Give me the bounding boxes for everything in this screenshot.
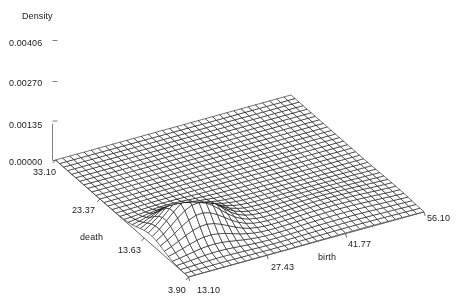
density-surface-plot: Density 0.00406 0.00270 0.00135 0.00000 … xyxy=(0,0,466,304)
z-axis-tick-label: 0.00135 xyxy=(9,120,42,130)
y-axis-title: birth xyxy=(318,252,336,262)
surface-mesh-canvas xyxy=(0,0,466,304)
x-axis-tick-label: 3.90 xyxy=(168,285,186,295)
z-axis-title: Density xyxy=(22,11,53,21)
z-axis-tick-label: 0.00406 xyxy=(9,38,42,48)
y-axis-tick-label: 56.10 xyxy=(427,213,450,223)
y-axis-tick-label: 27.43 xyxy=(271,262,294,272)
z-axis-tick-label: 0.00000 xyxy=(9,157,42,167)
x-axis-title: death xyxy=(80,232,103,242)
x-axis-tick-label: 23.37 xyxy=(72,205,95,215)
z-axis-tick-label: 0.00270 xyxy=(9,78,42,88)
y-axis-tick-label: 41.77 xyxy=(348,239,371,249)
y-axis-tick-label: 13.10 xyxy=(197,285,220,295)
x-axis-tick-label: 33.10 xyxy=(33,167,56,177)
x-axis-tick-label: 13.63 xyxy=(118,245,141,255)
